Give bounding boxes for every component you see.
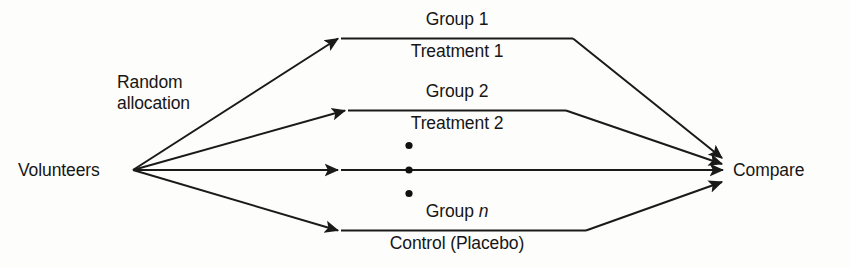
allocation-arrows xyxy=(133,39,345,231)
label-group-n-prefix: Group xyxy=(426,201,474,221)
node-compare: Compare xyxy=(733,160,804,180)
label-random-allocation: Random allocation xyxy=(117,72,190,114)
ellipsis-dot-bottom xyxy=(405,190,412,197)
arrow-to-group-n xyxy=(133,170,338,231)
vertical-ellipsis xyxy=(405,142,412,197)
ellipsis-dot-middle xyxy=(405,166,412,173)
compare-arrows xyxy=(566,39,723,231)
label-control-placebo: Control (Placebo) xyxy=(390,233,524,253)
random-allocation-line-1: Random xyxy=(117,72,190,93)
label-group-n: Group n xyxy=(426,201,489,221)
arrow-group-1-to-compare xyxy=(573,39,722,159)
label-treatment-1: Treatment 1 xyxy=(411,41,504,61)
label-group-1: Group 1 xyxy=(426,9,489,29)
label-group-2: Group 2 xyxy=(426,81,489,101)
arrow-group-2-to-compare xyxy=(566,111,722,165)
label-treatment-2: Treatment 2 xyxy=(411,113,504,133)
random-allocation-line-2: allocation xyxy=(117,93,190,114)
arrow-group-n-to-compare xyxy=(586,182,722,231)
branch-rails xyxy=(341,39,716,231)
label-group-n-italic: n xyxy=(479,201,489,221)
node-volunteers: Volunteers xyxy=(18,160,100,180)
arrow-to-group-2 xyxy=(133,111,345,171)
experiment-design-diagram: Volunteers Random allocation Group 1 Tre… xyxy=(0,0,850,268)
ellipsis-dot-top xyxy=(405,142,412,149)
